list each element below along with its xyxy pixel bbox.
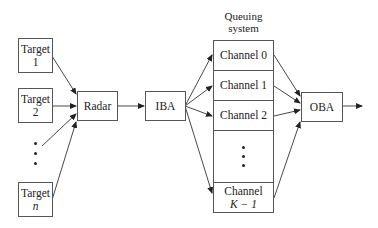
oba-box: OBA (301, 92, 343, 122)
target-1-number: 1 (33, 56, 39, 69)
target-n-number: n (33, 200, 39, 213)
ellipsis-dot (34, 142, 37, 145)
target-n-box: Target n (18, 182, 53, 217)
channel-0: Channel 0 (213, 40, 274, 71)
target-2-label: Target (21, 93, 50, 106)
target-2-box: Target 2 (18, 88, 53, 123)
target-1-box: Target 1 (18, 38, 53, 73)
ellipsis-dot (34, 162, 37, 165)
target-2-number: 2 (33, 106, 39, 119)
radar-label: Radar (84, 100, 111, 113)
channel-k-label: Channel (224, 185, 262, 198)
channel-1-label: Channel 1 (220, 79, 267, 92)
channel-2: Channel 2 (213, 100, 274, 131)
target-1-label: Target (21, 43, 50, 56)
channel-k-minus-1: Channel K − 1 (213, 182, 274, 213)
queuing-system-title: Queuing system (213, 10, 274, 34)
queuing-title-line1: Queuing (213, 10, 274, 22)
oba-label: OBA (310, 101, 334, 114)
channel-ellipsis (213, 130, 274, 183)
channel-k-index: K − 1 (230, 198, 257, 211)
iba-label: IBA (156, 100, 176, 113)
radar-box: Radar (77, 91, 118, 121)
channel-0-label: Channel 0 (220, 49, 267, 62)
channel-1: Channel 1 (213, 70, 274, 101)
ellipsis-dot (242, 146, 245, 149)
target-n-label: Target (21, 187, 50, 200)
ellipsis-dot (242, 164, 245, 167)
queuing-title-line2: system (213, 22, 274, 34)
channel-2-label: Channel 2 (220, 109, 267, 122)
iba-box: IBA (145, 91, 186, 121)
ellipsis-dot (34, 152, 37, 155)
ellipsis-dot (242, 155, 245, 158)
